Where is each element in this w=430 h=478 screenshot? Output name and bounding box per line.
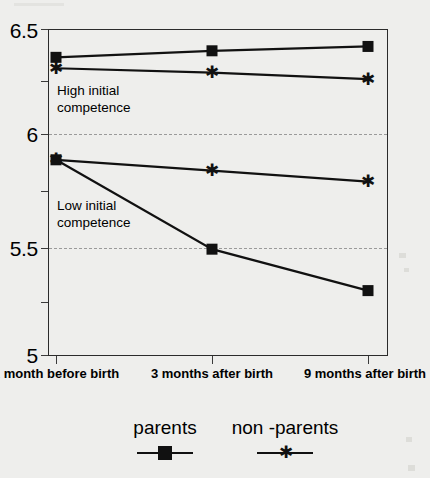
legend-entry-non-parents: non -parents ✱ [215, 417, 355, 461]
scan-speck [14, 3, 64, 6]
x-axis-label-9-months-after-birth: 9 months after birth [290, 366, 430, 382]
gridline-5-5 [49, 248, 387, 249]
scan-speck [404, 268, 409, 272]
y-tick-5-5 [41, 248, 48, 249]
y-axis-label-5-5: 5.5 [0, 238, 38, 259]
y-tick-6 [41, 134, 48, 135]
x-tick-1 [212, 356, 213, 364]
scan-speck [399, 253, 406, 258]
y-tick-5-25 [41, 302, 48, 303]
y-tick-6-5 [41, 29, 48, 30]
x-axis-label-1-month-before-birth: 1 month before birth [0, 366, 131, 382]
y-axis-label-6-5: 6.5 [0, 20, 38, 41]
legend-marker-filled-square-icon [137, 445, 193, 461]
plot-frame [48, 29, 388, 356]
y-tick-5-75 [41, 191, 48, 192]
gridline-6 [49, 134, 387, 135]
chart-legend: parents non -parents ✱ [0, 417, 423, 478]
x-tick-0 [56, 356, 57, 364]
y-tick-5 [41, 355, 48, 356]
x-axis-label-3-months-after-birth: 3 months after birth [137, 366, 287, 382]
annotation-high-initial-competence: High initial competence [57, 82, 131, 116]
annotation-low-initial-competence: Low initial competence [57, 197, 131, 231]
legend-marker-star-icon: ✱ [257, 445, 313, 461]
legend-label-non-parents: non -parents [215, 417, 355, 439]
legend-label-parents: parents [95, 417, 235, 439]
x-tick-2 [368, 356, 369, 364]
y-axis-label-5: 5 [0, 345, 38, 366]
y-tick-6-25 [41, 81, 48, 82]
legend-entry-parents: parents [95, 417, 235, 461]
y-axis-label-6: 6 [0, 124, 38, 145]
